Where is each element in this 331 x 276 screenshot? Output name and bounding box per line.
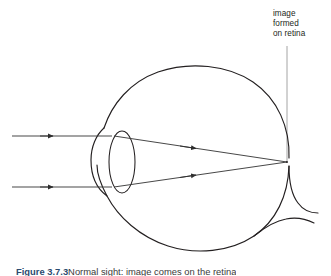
retina-label-line-1: image <box>273 9 305 19</box>
diagram-background <box>0 0 331 276</box>
focal-point <box>286 161 288 163</box>
eye-ray-diagram <box>0 0 331 276</box>
retina-label-line-2: formed <box>273 19 305 29</box>
retina-label-line-3: on retina <box>273 29 305 39</box>
figure-caption: Figure 3.7.3Normal sight: image comes on… <box>16 266 236 276</box>
figure-container: image formed on retina Figure 3.7.3Norma… <box>0 0 331 276</box>
figure-caption-text: Normal sight: image comes on the retina <box>68 266 236 276</box>
retina-annotation-label: image formed on retina <box>273 9 305 40</box>
figure-caption-number: Figure 3.7.3 <box>16 266 68 276</box>
